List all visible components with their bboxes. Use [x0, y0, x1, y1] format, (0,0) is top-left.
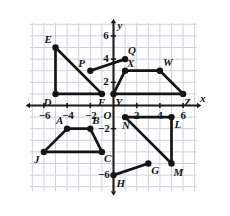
y-tick-label-1: 4: [103, 53, 109, 64]
point-label-j: J: [34, 154, 40, 165]
point-label-d: D: [44, 97, 52, 108]
x-axis-label: x: [200, 93, 206, 104]
point-label-h: H: [117, 178, 126, 189]
y-tick-label-3: −2: [98, 123, 110, 134]
y-tick-label-2: 2: [103, 76, 109, 87]
vertex-dot-p: [87, 68, 93, 74]
vertex-dot-e: [52, 44, 58, 50]
point-label-l: L: [175, 119, 182, 130]
point-label-z: Z: [184, 97, 191, 108]
x-tick-label-2: −2: [85, 110, 97, 121]
x-tick-label-3: 2: [134, 110, 140, 121]
vertex-dot-b: [87, 126, 93, 132]
y-tick-label-4: −6: [98, 169, 110, 180]
x-tick-label-0: −6: [39, 110, 51, 121]
point-label-n: N: [122, 120, 130, 131]
point-label-p: P: [78, 58, 85, 69]
point-label-q: Q: [128, 45, 136, 56]
x-tick-label-5: 6: [181, 110, 187, 121]
vertex-dot-d: [52, 91, 58, 97]
y-axis-label: y: [118, 20, 123, 31]
y-tick-label-0: 6: [103, 30, 109, 41]
point-label-f: F: [98, 97, 105, 108]
vertex-dot-j: [41, 149, 47, 155]
point-label-g: G: [151, 165, 159, 176]
plot-canvas: [0, 0, 230, 216]
vertex-dot-a: [64, 126, 70, 132]
x-tick-label-4: 4: [157, 110, 163, 121]
x-tick-label-1: −4: [62, 110, 74, 121]
point-label-m: M: [174, 167, 184, 178]
point-label-x: X: [127, 58, 134, 69]
point-label-y: Y: [116, 97, 123, 108]
point-label-e: E: [45, 34, 52, 45]
origin-label: O: [104, 110, 112, 121]
coordinate-plane-figure: EDFPQYXWZABCJNLMGHxyO−6−4−2246642−2−6: [0, 0, 230, 216]
point-label-c: C: [104, 153, 111, 164]
segment-HG: [114, 164, 149, 176]
vertex-dot-w: [157, 68, 163, 74]
point-label-w: W: [163, 57, 173, 68]
